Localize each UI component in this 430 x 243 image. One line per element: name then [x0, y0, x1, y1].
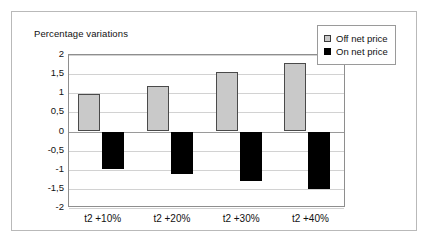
- y-axis-tick-label: 1,5: [30, 68, 64, 78]
- legend-item-label: On net price: [336, 46, 388, 57]
- gridline: [69, 208, 344, 209]
- x-axis-tick-label: t2 +20%: [137, 213, 206, 231]
- legend-item[interactable]: On net price: [324, 46, 388, 57]
- chart-frame: Percentage variations 21,510,50-0,5-1-1,…: [11, 11, 417, 231]
- bar-off-net-price: [216, 72, 238, 131]
- y-axis-tick-label: 0,5: [30, 106, 64, 116]
- x-axis-tick-label: t2 +30%: [207, 213, 276, 231]
- plot-area: [68, 54, 345, 207]
- legend-item-label: Off net price: [336, 33, 388, 44]
- y-axis-tick-label: -0,5: [30, 145, 64, 155]
- y-axis-tick-label: 2: [30, 49, 64, 59]
- bar-group: [69, 55, 138, 206]
- bar-off-net-price: [284, 63, 306, 132]
- y-axis-tick-label: 0: [30, 126, 64, 136]
- bar-group: [138, 55, 207, 206]
- y-axis-tick-label: -1,5: [30, 183, 64, 193]
- y-axis-tick-label: -2: [30, 202, 64, 212]
- bar-groups: [69, 55, 344, 206]
- legend-item[interactable]: Off net price: [324, 33, 388, 44]
- legend-swatch-icon: [324, 35, 331, 42]
- bar-on-net-price: [240, 132, 262, 182]
- x-axis: t2 +10%t2 +20%t2 +30%t2 +40%: [68, 213, 345, 231]
- bar-on-net-price: [102, 132, 124, 169]
- chart-title: Percentage variations: [34, 28, 128, 39]
- bar-off-net-price: [78, 94, 100, 131]
- bar-off-net-price: [147, 86, 169, 132]
- bar-on-net-price: [171, 132, 193, 174]
- chart-legend: Off net priceOn net price: [317, 25, 396, 65]
- y-axis-tick-label: 1: [30, 87, 64, 97]
- y-axis-tick-label: -1: [30, 164, 64, 174]
- legend-swatch-icon: [324, 48, 331, 55]
- y-axis: 21,510,50-0,5-1-1,5-2: [26, 54, 64, 207]
- bar-on-net-price: [308, 132, 330, 189]
- x-axis-tick-label: t2 +10%: [68, 213, 137, 231]
- x-axis-tick-label: t2 +40%: [276, 213, 345, 231]
- bar-group: [207, 55, 276, 206]
- bar-group: [275, 55, 344, 206]
